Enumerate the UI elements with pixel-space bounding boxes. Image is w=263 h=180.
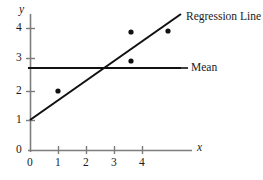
y-tick-label-1: 1 bbox=[16, 114, 22, 126]
x-tick-label-0: 0 bbox=[27, 157, 33, 169]
data-point bbox=[165, 28, 170, 33]
data-point bbox=[128, 29, 133, 34]
y-tick-label-0: 0 bbox=[16, 144, 22, 156]
data-point bbox=[55, 88, 60, 93]
plot-area bbox=[0, 0, 263, 180]
regression-line-label: Regression Line bbox=[186, 11, 261, 23]
mean-label: Mean bbox=[191, 62, 217, 74]
y-tick-label-4: 4 bbox=[16, 22, 22, 34]
y-tick-label-2: 2 bbox=[16, 85, 22, 97]
x-tick-label-1: 1 bbox=[55, 157, 61, 169]
x-axis-label: x bbox=[197, 142, 202, 154]
y-axis-label: y bbox=[19, 4, 24, 16]
data-point bbox=[128, 58, 133, 63]
x-tick-label-2: 2 bbox=[83, 157, 89, 169]
x-tick-label-3: 3 bbox=[111, 157, 117, 169]
y-tick-label-3: 3 bbox=[16, 52, 22, 64]
x-tick-label-4: 4 bbox=[139, 157, 145, 169]
regression-line-chart: y x 4 3 2 1 0 0 1 2 3 4 Regression Line … bbox=[0, 0, 263, 180]
